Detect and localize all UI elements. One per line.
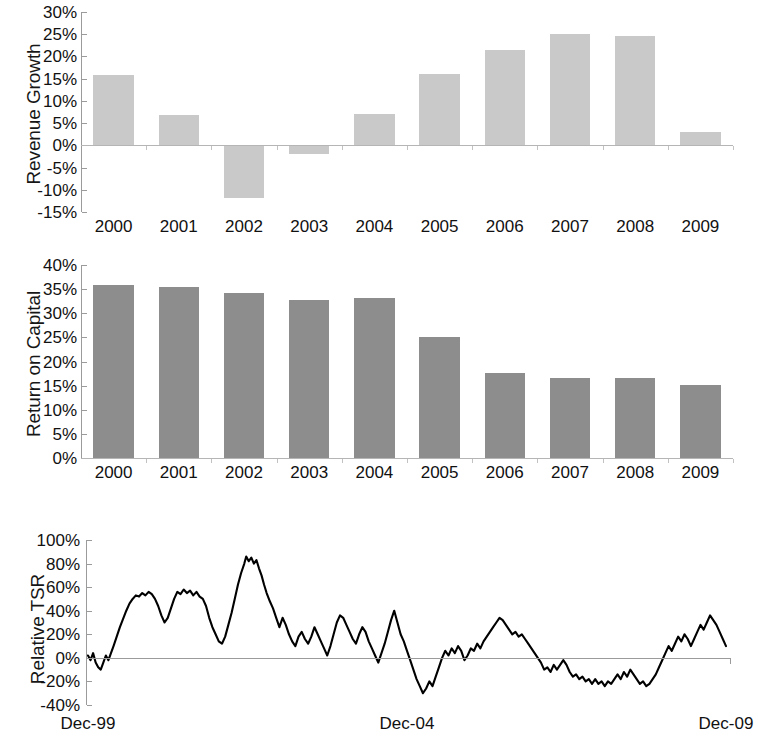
bar-2001: [159, 287, 199, 458]
y-tick-mark: [82, 434, 87, 435]
x-tick-label: Dec-04: [357, 715, 457, 732]
x-tick-label: 2009: [668, 464, 733, 481]
x-tick-mark: [668, 146, 669, 150]
x-tick-mark: [211, 459, 212, 463]
chart-revenue-growth: Revenue Growth 30%25%20%15%10%5%0%-5%-10…: [0, 0, 738, 240]
x-tick-label: 2008: [603, 464, 668, 481]
y-tick-mark: [82, 123, 87, 124]
y-tick-mark: [82, 386, 87, 387]
y-axis-line: [81, 12, 82, 212]
x-tick-mark: [603, 459, 604, 463]
bar-2006: [485, 50, 525, 146]
y-tick-mark: [82, 337, 87, 338]
x-tick-label: 2004: [342, 464, 407, 481]
y-tick-mark: [87, 587, 92, 588]
x-tick-label: 2004: [342, 218, 407, 235]
y-tick-mark: [82, 168, 87, 169]
x-tick-mark: [603, 146, 604, 150]
y-tick-mark: [82, 289, 87, 290]
x-tick-label: 2001: [146, 218, 211, 235]
x-tick-label: 2008: [603, 218, 668, 235]
zero-baseline: [86, 658, 730, 659]
chart-relative-tsr: Relative TSR 100%80%60%40%20%0%-20%-40% …: [0, 510, 738, 741]
x-tick-label: 2007: [537, 218, 602, 235]
x-tick-mark: [211, 146, 212, 150]
x-tick-mark: [342, 459, 343, 463]
x-tick-label: 2002: [211, 218, 276, 235]
y-axis-line: [86, 540, 87, 705]
x-tick-label: 2007: [537, 464, 602, 481]
y-tick-mark: [82, 265, 87, 266]
x-tick-mark: [277, 146, 278, 150]
y-tick-mark: [87, 634, 92, 635]
x-tick-mark: [537, 459, 538, 463]
bar-2005: [419, 337, 459, 458]
x-tick-label: Dec-09: [676, 715, 758, 732]
x-tick-mark: [146, 146, 147, 150]
y-tick-mark: [82, 79, 87, 80]
x-tick-label: Dec-99: [38, 715, 138, 732]
bar-2000: [93, 75, 133, 145]
x-tick-mark: [407, 459, 408, 463]
y-tick-mark: [87, 540, 92, 541]
x-tick-mark: [537, 146, 538, 150]
x-tick-mark: [668, 459, 669, 463]
tsr-polyline: [88, 557, 726, 694]
bar-2002: [224, 145, 264, 198]
x-tick-label: 2003: [277, 464, 342, 481]
bar-2007: [550, 34, 590, 145]
y-tick-mark: [82, 362, 87, 363]
x-tick-label: 2001: [146, 464, 211, 481]
bar-2000: [93, 285, 133, 458]
y-tick-mark: [82, 34, 87, 35]
x-tick-mark: [733, 459, 734, 463]
x-tick-label: 2005: [407, 218, 472, 235]
x-tick-mark: [472, 459, 473, 463]
x-tick-label: 2006: [472, 218, 537, 235]
y-tick-mark: [82, 190, 87, 191]
y-tick-mark: [87, 705, 92, 706]
y-tick-mark: [82, 313, 87, 314]
bar-2008: [615, 36, 655, 145]
y-tick-mark: [82, 12, 87, 13]
x-tick-label: 2005: [407, 464, 472, 481]
bar-2003: [289, 145, 329, 154]
x-tick-mark: [277, 459, 278, 463]
x-tick-label: 2003: [277, 218, 342, 235]
x-tick-label: 2000: [81, 218, 146, 235]
bar-2003: [289, 300, 329, 458]
x-tick-label: 2000: [81, 464, 146, 481]
x-tick-mark: [146, 459, 147, 463]
bar-2009: [680, 132, 720, 145]
y-tick-mark: [82, 212, 87, 213]
bar-2002: [224, 293, 264, 458]
bar-2005: [419, 74, 459, 145]
relative-tsr-line-series: [0, 510, 738, 741]
bar-2006: [485, 373, 525, 458]
revenue-growth-plot-area: [0, 0, 738, 240]
y-tick-mark: [87, 564, 92, 565]
y-tick-mark: [82, 101, 87, 102]
x-tick-mark: [472, 146, 473, 150]
bar-2001: [159, 115, 199, 145]
bar-2004: [354, 298, 394, 458]
x-tick-mark: [733, 146, 734, 150]
x-tick-label: 2006: [472, 464, 537, 481]
y-tick-mark: [82, 410, 87, 411]
y-tick-mark: [87, 611, 92, 612]
bar-2004: [354, 114, 394, 145]
bar-2008: [615, 378, 655, 458]
x-tick-label: 2009: [668, 218, 733, 235]
y-tick-mark: [82, 56, 87, 57]
bar-2009: [680, 385, 720, 458]
chart-return-on-capital: Return on Capital 40%35%30%25%20%15%10%5…: [0, 240, 738, 510]
bar-2007: [550, 378, 590, 458]
x-tick-mark: [407, 146, 408, 150]
x-tick-label: 2002: [211, 464, 276, 481]
y-axis-line: [81, 265, 82, 458]
x-axis-end-tick: [730, 658, 731, 664]
y-tick-mark: [87, 681, 92, 682]
x-tick-mark: [342, 146, 343, 150]
